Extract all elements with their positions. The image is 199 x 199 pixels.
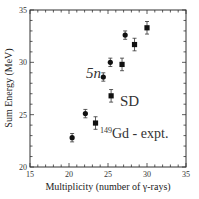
circle-marker [83, 111, 88, 116]
annotation-gd-superscript: 149 [100, 126, 112, 135]
x-tick-label: 20 [65, 170, 73, 179]
annotation-gd-expt: 149Gd - expt. [100, 126, 168, 141]
plot-frame [30, 10, 186, 167]
square-marker [109, 93, 114, 98]
circle-marker [123, 33, 128, 38]
annotation-5n: 5n [86, 65, 101, 81]
axis-ticks [30, 10, 186, 167]
circle-marker [70, 135, 75, 140]
y-axis-label: Sum Energy (MeV) [3, 48, 15, 127]
data-points [70, 22, 150, 142]
tick-labels: 152025303520253035 [19, 6, 190, 179]
x-axis-label: Multiplicity (number of γ-rays) [45, 181, 170, 193]
x-tick-label: 30 [143, 170, 151, 179]
x-tick-label: 25 [104, 170, 112, 179]
x-tick-label: 35 [182, 170, 190, 179]
y-tick-label: 25 [19, 111, 27, 120]
square-marker [93, 120, 98, 125]
y-tick-label: 35 [19, 6, 27, 15]
annotation-gd-text: Gd - expt. [112, 126, 168, 141]
circle-marker [101, 74, 106, 79]
annotation-sd: SD [120, 93, 139, 109]
chart: 152025303520253035 Multiplicity (number … [0, 0, 199, 199]
y-tick-label: 20 [19, 163, 27, 172]
square-marker [132, 42, 137, 47]
square-marker [144, 25, 149, 30]
square-marker [119, 62, 124, 67]
y-tick-label: 30 [19, 58, 27, 67]
x-tick-label: 15 [26, 170, 34, 179]
circle-marker [108, 60, 113, 65]
